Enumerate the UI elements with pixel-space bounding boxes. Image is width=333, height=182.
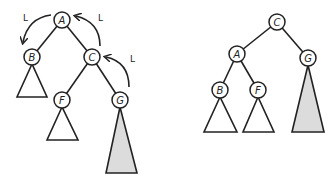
svg-text:C: C xyxy=(89,52,96,63)
svg-text:C: C xyxy=(274,17,281,28)
svg-text:B: B xyxy=(29,52,36,63)
node-c: C xyxy=(84,49,100,65)
tree-rotation-diagram: A B C F G L L L xyxy=(0,0,333,182)
node-f: F xyxy=(54,92,70,108)
tree-before: A B C F G L L L xyxy=(17,12,137,173)
rotation-label-2: L xyxy=(98,13,103,23)
node-f: F xyxy=(250,82,266,98)
svg-text:A: A xyxy=(233,49,241,60)
node-b: B xyxy=(212,82,228,98)
node-g: G xyxy=(112,92,128,108)
subtree-b xyxy=(204,97,237,132)
subtree-g-shaded xyxy=(106,107,137,173)
subtree-g-shaded xyxy=(292,65,324,132)
subtree-f xyxy=(243,97,274,132)
node-c: C xyxy=(269,14,285,30)
subtree-b xyxy=(17,64,47,97)
svg-text:G: G xyxy=(304,53,312,64)
tree-after: C A G B F xyxy=(204,14,324,132)
subtree-f xyxy=(47,107,78,140)
node-a: A xyxy=(229,46,245,62)
node-a: A xyxy=(54,12,70,28)
svg-text:B: B xyxy=(217,85,224,96)
rotation-label-3: L xyxy=(130,54,135,64)
svg-text:A: A xyxy=(58,15,66,26)
svg-text:F: F xyxy=(59,95,65,106)
rotation-label-1: L xyxy=(23,13,28,23)
node-b: B xyxy=(24,49,40,65)
svg-text:F: F xyxy=(255,85,261,96)
svg-text:G: G xyxy=(116,95,124,106)
node-g: G xyxy=(300,50,316,66)
